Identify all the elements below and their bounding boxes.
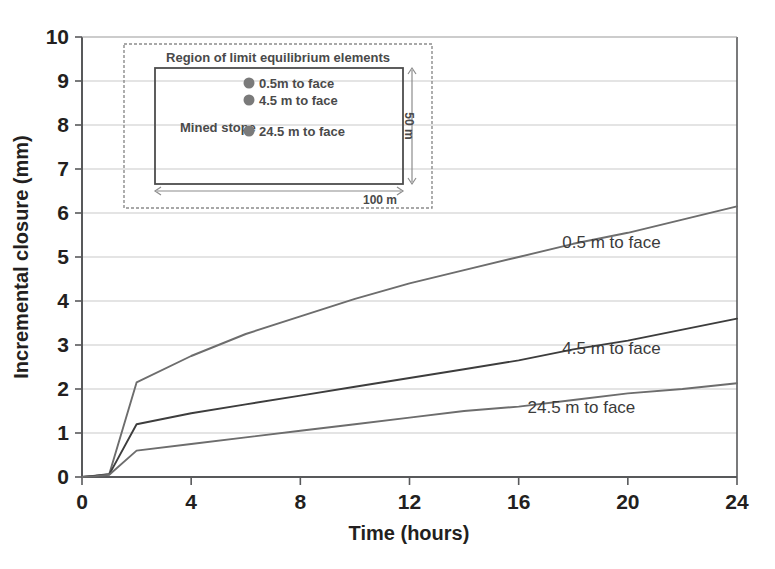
inset-marker-dot-1 [244, 95, 255, 106]
x-tick-label-3: 12 [398, 490, 421, 513]
inset-marker-label-1: 4.5 m to face [259, 93, 338, 108]
inset-height-label: 50 m [402, 112, 416, 139]
x-tick-label-2: 8 [294, 490, 306, 513]
figure-container: 012345678910 04812162024 Time (hours) In… [0, 0, 775, 569]
x-tick-label-1: 4 [185, 490, 197, 513]
inset-height-dimension: 50 m [402, 68, 416, 184]
series-annotation-0: 0.5 m to face [562, 233, 660, 252]
y-axis-title: Incremental closure (mm) [10, 135, 32, 378]
y-tick-label-4: 4 [57, 289, 69, 312]
y-tick-label-5: 5 [57, 245, 69, 268]
inset-marker-label-2: 24.5 m to face [259, 124, 345, 139]
y-tick-label-10: 10 [46, 25, 69, 48]
incremental-closure-chart: 012345678910 04812162024 Time (hours) In… [0, 0, 775, 569]
inset-width-label: 100 m [363, 193, 397, 207]
y-tick-label-6: 6 [57, 201, 69, 224]
y-tick-label-9: 9 [57, 69, 69, 92]
inset-marker-label-0: 0.5m to face [259, 76, 334, 91]
inset-marker-dot-2 [244, 126, 255, 137]
x-tick-label-4: 16 [507, 490, 530, 513]
x-axis-title: Time (hours) [349, 522, 470, 544]
series-annotations: 0.5 m to face4.5 m to face24.5 m to face [528, 233, 661, 417]
x-tick-label-0: 0 [76, 490, 88, 513]
inset-width-dimension: 100 m [155, 187, 403, 207]
y-axis-ticks [75, 37, 82, 477]
y-tick-label-7: 7 [57, 157, 69, 180]
inset-diagram: Region of limit equilibrium elements Min… [124, 44, 432, 208]
x-tick-label-5: 20 [616, 490, 639, 513]
x-tick-label-6: 24 [725, 490, 749, 513]
y-tick-label-0: 0 [57, 465, 69, 488]
y-tick-label-2: 2 [57, 377, 69, 400]
x-axis-tick-labels: 04812162024 [76, 490, 749, 513]
y-tick-label-3: 3 [57, 333, 69, 356]
y-tick-label-1: 1 [57, 421, 69, 444]
inset-region-label: Region of limit equilibrium elements [166, 50, 390, 65]
series-annotation-1: 4.5 m to face [562, 339, 660, 358]
y-tick-label-8: 8 [57, 113, 69, 136]
y-axis-tick-labels: 012345678910 [46, 25, 70, 488]
inset-marker-dot-0 [244, 78, 255, 89]
series-line-2 [82, 383, 737, 477]
series-annotation-2: 24.5 m to face [528, 398, 636, 417]
x-axis-ticks [82, 477, 737, 485]
